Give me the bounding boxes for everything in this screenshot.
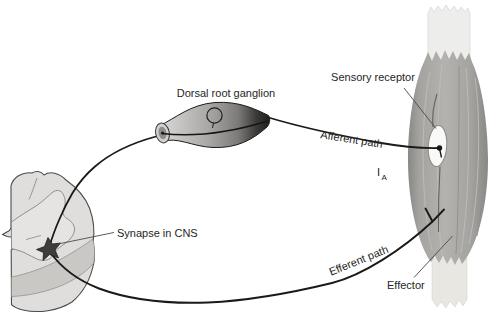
afferent-path-label: Afferent path xyxy=(320,128,384,150)
dorsal-root-ganglion-label: Dorsal root ganglion xyxy=(177,87,275,99)
dorsal-root-ganglion xyxy=(154,102,270,147)
ia-symbol-subscript: A xyxy=(382,173,388,182)
reflex-arc-diagram: Dorsal root ganglion Sensory receptor Af… xyxy=(0,0,501,321)
receptor-terminal-dot xyxy=(437,145,442,150)
lower-tendon xyxy=(432,258,467,308)
sensory-receptor-label: Sensory receptor xyxy=(331,71,415,83)
labels: Dorsal root ganglion Sensory receptor Af… xyxy=(117,71,425,291)
nerve-paths xyxy=(37,118,445,303)
effector-label: Effector xyxy=(387,279,425,291)
reflex-arc-figure: Dorsal root ganglion Sensory receptor Af… xyxy=(0,0,501,321)
synapse-in-cns-label: Synapse in CNS xyxy=(117,227,198,239)
effector-muscle xyxy=(408,5,488,308)
upper-tendon xyxy=(428,5,470,60)
ia-symbol: I xyxy=(377,166,380,178)
